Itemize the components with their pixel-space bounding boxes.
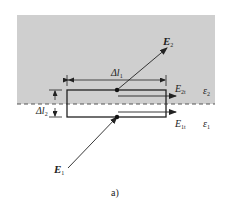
dl2-label: Δl2 [36, 106, 48, 117]
e2-label: E2 [163, 36, 173, 48]
e1-vector-arrow [68, 117, 117, 168]
figure-caption: a) [111, 188, 119, 198]
epsilon1-label: ε1 [203, 119, 210, 130]
epsilon2-label: ε2 [203, 86, 210, 97]
e2t-label: E2t [175, 84, 186, 95]
boundary-condition-diagram [0, 0, 228, 210]
point-top [115, 88, 119, 92]
e1-label: E1 [54, 164, 64, 176]
dl1-label: Δl1 [111, 68, 123, 79]
e1t-label: E1t [175, 119, 186, 130]
point-bottom [115, 115, 119, 119]
